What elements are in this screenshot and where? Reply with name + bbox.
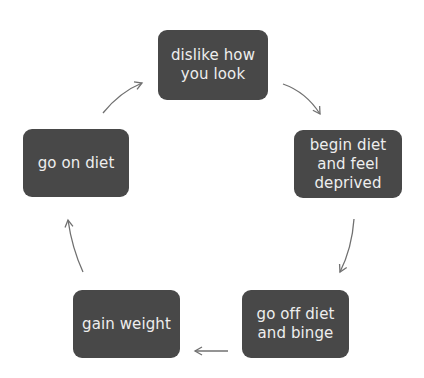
node-label: gain weight [82, 315, 171, 334]
node-label: go off diet and binge [246, 305, 345, 343]
arrow-begin-to-gooff [340, 219, 354, 272]
node-go-on-diet: go on diet [23, 129, 129, 197]
arrow-goon-to-dislike [103, 83, 142, 113]
node-begin-diet: begin diet and feel deprived [294, 130, 402, 198]
arrow-gain-to-goon [68, 220, 83, 272]
node-label: dislike how you look [162, 46, 264, 84]
arrow-dislike-to-begin [283, 84, 320, 114]
node-go-off-diet: go off diet and binge [242, 290, 349, 358]
node-label: begin diet and feel deprived [298, 136, 398, 193]
node-dislike-how-you-look: dislike how you look [158, 30, 268, 100]
node-label: go on diet [38, 154, 115, 173]
node-gain-weight: gain weight [73, 290, 180, 358]
